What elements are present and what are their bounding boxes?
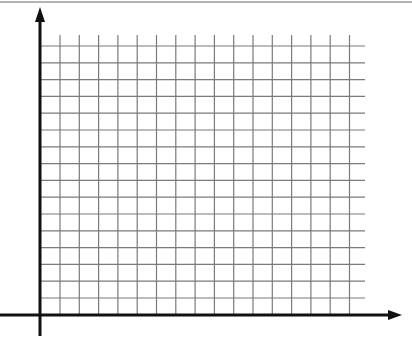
background <box>0 0 412 338</box>
coordinate-grid-figure <box>0 0 412 338</box>
